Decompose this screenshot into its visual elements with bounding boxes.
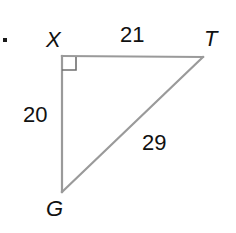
- geometry-figure: X T G 21 20 29: [0, 0, 236, 233]
- vertex-label-t: T: [204, 28, 217, 50]
- right-angle-marker-icon: [62, 57, 76, 70]
- segment-XT: [62, 56, 203, 57]
- segment-GT: [62, 57, 203, 192]
- side-length-label-gt: 29: [142, 132, 166, 154]
- side-length-label-xt: 21: [120, 24, 144, 46]
- side-length-label-xg: 20: [23, 104, 47, 126]
- triangle-outline: [62, 56, 203, 192]
- vertex-label-g: G: [46, 198, 63, 220]
- vertex-label-x: X: [46, 29, 61, 51]
